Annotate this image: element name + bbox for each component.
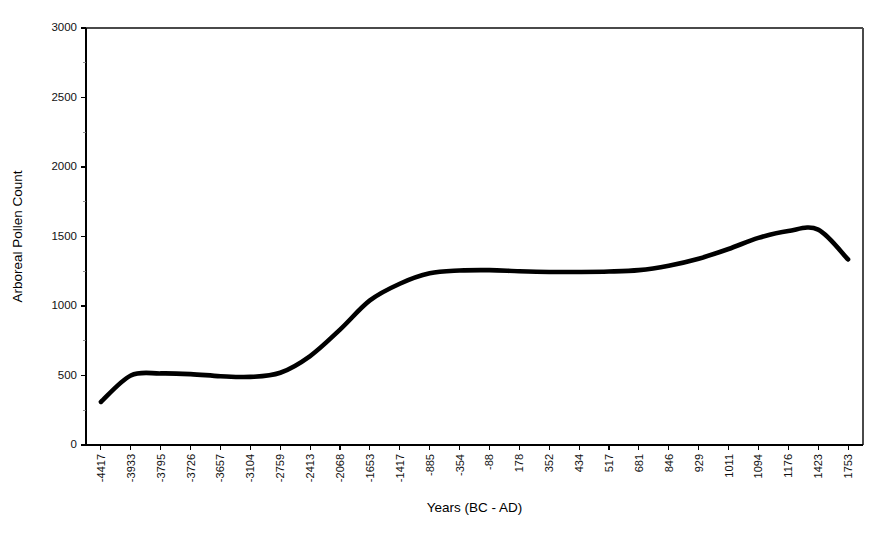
y-axis-tick-label: 2500 [51, 91, 77, 103]
x-axis-tick-label: -3795 [155, 454, 167, 482]
x-axis-tick-label: -885 [424, 454, 436, 476]
x-axis-tick-label: -2413 [304, 454, 316, 482]
y-axis-tick-label: 2000 [51, 160, 77, 172]
x-axis-tick-label: 352 [543, 454, 555, 472]
y-axis-tick-labels: 050010001500200025003000 [51, 21, 77, 450]
x-axis-title: Years (BC - AD) [427, 500, 523, 515]
y-axis-tick-label: 0 [71, 438, 77, 450]
x-axis-tick-label: 517 [603, 454, 615, 472]
x-axis-tick-label: 1176 [782, 454, 794, 478]
x-axis-tick-label: 846 [663, 454, 675, 472]
x-axis-tick-label: -4417 [95, 454, 107, 482]
y-axis-tick-label: 1000 [51, 299, 77, 311]
x-axis-tick-label: 434 [573, 454, 585, 472]
x-axis-tick-label: 929 [693, 454, 705, 472]
y-axis-title: Arboreal Pollen Count [10, 170, 25, 302]
x-axis-tick-label: 1753 [842, 454, 854, 478]
x-axis-tick-label: -2759 [274, 454, 286, 482]
x-axis-tick-label: -3104 [244, 454, 256, 482]
chart-canvas: 050010001500200025003000 -4417-3933-3795… [0, 0, 882, 540]
x-axis-tick-label: 1094 [752, 454, 764, 478]
x-axis-tick-label: -1653 [364, 454, 376, 482]
y-axis-tick-label: 3000 [51, 21, 77, 33]
plot-frame [86, 28, 863, 445]
x-axis-tick-label: 178 [513, 454, 525, 472]
x-axis-tick-label: 681 [633, 454, 645, 472]
x-axis-tick-label: 1011 [723, 454, 735, 478]
y-axis-tick-label: 1500 [51, 230, 77, 242]
x-axis-tick-label: -2068 [334, 454, 346, 482]
x-axis-tick-label: 1423 [812, 454, 824, 478]
pollen-count-line [101, 227, 848, 401]
x-axis-tick-label: -88 [483, 454, 495, 470]
x-axis-tick-label: -3933 [125, 454, 137, 482]
pollen-count-chart-figure: 050010001500200025003000 -4417-3933-3795… [0, 0, 882, 540]
x-axis-tick-label: -3726 [185, 454, 197, 482]
x-axis-tick-labels: -4417-3933-3795-3726-3657-3104-2759-2413… [95, 454, 854, 482]
y-axis-tick-label: 500 [58, 369, 77, 381]
x-axis-tick-label: -354 [454, 454, 466, 476]
x-axis-tick-label: -3657 [214, 454, 226, 482]
x-axis-tick-label: -1417 [394, 454, 406, 482]
